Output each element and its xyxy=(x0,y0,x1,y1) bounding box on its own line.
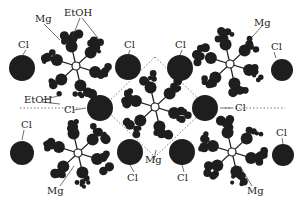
label-cl-mid-right: Cl xyxy=(235,103,246,113)
label-cl-bottom-1: Cl xyxy=(21,120,32,130)
label-cl-bottom-4: Cl xyxy=(276,128,287,138)
label-cl-top-2: Cl xyxy=(124,40,135,50)
label-cl-top-4: Cl xyxy=(271,42,282,52)
label-cl-bottom-2: Cl xyxy=(127,173,138,183)
label-etoh-top: EtOH xyxy=(64,8,92,18)
label-mg-bottom-right: Mg xyxy=(247,186,264,196)
label-cl-top-1: Cl xyxy=(18,40,29,50)
label-cl-top-3: Cl xyxy=(175,40,186,50)
label-mg-top-right: Mg xyxy=(254,18,271,28)
label-mg-top-left: Mg xyxy=(35,14,52,24)
label-mg-bottom-left: Mg xyxy=(47,186,64,196)
label-cl-mid-left: Cl xyxy=(64,105,75,115)
label-mg-bottom-mid: Mg xyxy=(145,155,162,165)
crystal-structure-figure: Mg EtOH Cl Cl Cl Mg Cl EtOH Cl Cl Cl Cl … xyxy=(0,0,300,207)
label-etoh-left: EtOH xyxy=(24,95,52,105)
label-cl-bottom-3: Cl xyxy=(177,173,188,183)
